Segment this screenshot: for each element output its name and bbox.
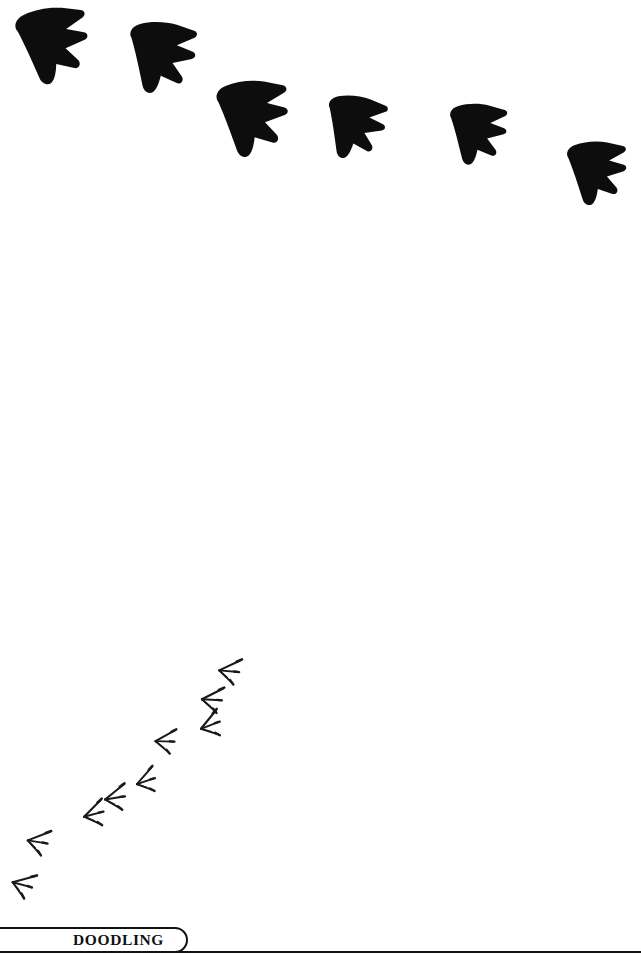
doodling-page: DOODLING [0,0,641,955]
large-footprint-3 [214,73,298,161]
small-footprint-2 [201,685,225,713]
section-tab-label: DOODLING [0,929,186,951]
section-tab[interactable]: DOODLING [0,927,188,953]
large-footprint-4 [329,95,388,158]
small-footprint-8 [25,827,51,857]
small-footprint-5 [133,766,159,795]
small-footprint-9 [9,869,37,900]
small-footprint-1 [218,656,242,685]
small-footprint-7 [81,799,107,829]
footer-rule [0,951,641,953]
large-footprint-1 [13,0,101,89]
large-footprint-5 [449,100,512,166]
large-footprint-6 [566,136,635,208]
small-footprint-group [9,656,242,900]
small-footprint-6 [104,783,128,811]
large-footprint-2 [130,19,201,94]
small-footprint-3 [197,709,225,740]
large-footprint-group [13,0,635,207]
footprint-artwork [0,0,641,955]
small-footprint-4 [155,728,177,754]
